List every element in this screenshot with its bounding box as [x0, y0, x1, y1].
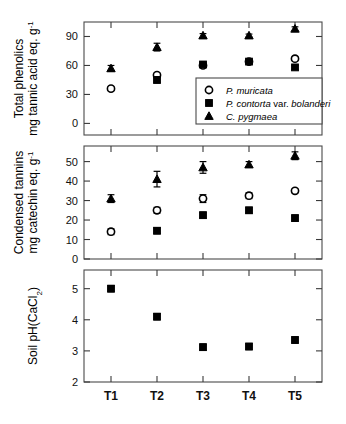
y-axis-title-total-phenolics-rot: Total phenolicsmg tannic acid eq. g-1 — [12, 21, 40, 136]
marker-soil-ph — [292, 337, 299, 344]
x-tick-label-T5: T5 — [288, 389, 302, 403]
legend-label: P. contorta var. bolanderi — [226, 98, 331, 109]
x-tick-label-T4: T4 — [242, 389, 256, 403]
y-axis-title-total-phenolics-line: Total phenolics — [12, 39, 26, 118]
marker-p-muricata — [153, 207, 160, 214]
legend-label: P. muricata — [226, 85, 273, 96]
y-axis-title-condensed-tannins-line: Condensed tannins — [12, 151, 26, 254]
y-axis-title-total-phenolics-line: mg tannic acid eq. g-1 — [26, 21, 41, 136]
marker-p-muricata — [245, 192, 252, 199]
marker-soil-ph — [154, 313, 161, 320]
y-axis-title-soil-ph: Soil pH(CaCl2) — [26, 287, 44, 365]
panel-frame-bottom — [84, 270, 322, 382]
legend: P. muricataP. contorta var. bolanderiC. … — [196, 78, 331, 124]
marker-p-contorta-var-bolanderi — [200, 61, 207, 68]
marker-p-contorta-var-bolanderi — [200, 212, 207, 219]
y-tick-label: 40 — [66, 175, 78, 187]
x-tick-label-T1: T1 — [104, 389, 118, 403]
marker-p-contorta-var-bolanderi — [246, 58, 253, 65]
y-tick-label: 0 — [72, 117, 78, 129]
y-axis-title-condensed-tannins: Condensed tanninsmg catechin eq. g-1 — [12, 151, 40, 254]
y-tick-label: 90 — [66, 30, 78, 42]
marker-p-muricata — [107, 85, 114, 92]
y-tick-label: 5 — [72, 283, 78, 295]
y-tick-label: 2 — [72, 376, 78, 388]
y-tick-label: 3 — [72, 345, 78, 357]
panel-middle: 01020304050 — [66, 146, 322, 265]
x-tick-label-T2: T2 — [150, 389, 164, 403]
marker-p-contorta-var-bolanderi — [154, 77, 161, 84]
marker-legend-1 — [206, 100, 213, 107]
marker-p-muricata — [291, 55, 298, 62]
marker-p-contorta-var-bolanderi — [292, 64, 299, 71]
y-tick-label: 60 — [66, 59, 78, 71]
y-tick-label: 10 — [66, 234, 78, 246]
y-axis-title-total-phenolics: Total phenolicsmg tannic acid eq. g-1 — [12, 21, 40, 136]
marker-p-contorta-var-bolanderi — [154, 227, 161, 234]
marker-legend-0 — [205, 86, 212, 93]
y-tick-label: 4 — [72, 314, 78, 326]
marker-p-muricata — [107, 228, 114, 235]
marker-p-muricata — [291, 187, 298, 194]
marker-soil-ph — [108, 285, 115, 292]
marker-p-muricata — [199, 195, 206, 202]
marker-p-contorta-var-bolanderi — [292, 215, 299, 222]
y-axis-title-soil-ph-line: Soil pH(CaCl2) — [26, 287, 44, 365]
y-axis-title-condensed-tannins-rot: Condensed tanninsmg catechin eq. g-1 — [12, 151, 40, 254]
panel-bottom: 2345T1T2T3T4T5 — [72, 270, 322, 403]
y-axis-title-soil-ph-rot: Soil pH(CaCl2) — [26, 287, 44, 365]
legend-label: C. pygmaea — [226, 111, 277, 122]
figure-container: 0306090010203040502345T1T2T3T4T5Total ph… — [0, 0, 346, 424]
three-panel-scatter-figure: 0306090010203040502345T1T2T3T4T5Total ph… — [0, 0, 346, 424]
x-tick-label-T3: T3 — [196, 389, 210, 403]
y-tick-label: 50 — [66, 156, 78, 168]
y-tick-label: 20 — [66, 214, 78, 226]
y-tick-label: 30 — [66, 195, 78, 207]
y-axis-title-condensed-tannins-line: mg catechin eq. g-1 — [26, 151, 41, 253]
y-tick-label: 0 — [72, 253, 78, 265]
marker-soil-ph — [246, 343, 253, 350]
y-tick-label: 30 — [66, 88, 78, 100]
marker-soil-ph — [200, 344, 207, 351]
marker-p-contorta-var-bolanderi — [246, 207, 253, 214]
